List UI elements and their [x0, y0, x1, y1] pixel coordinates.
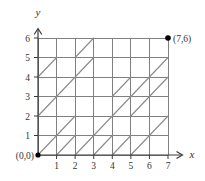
- endpoint-point-marker: [165, 35, 171, 41]
- diagonal-segment-12: [94, 136, 113, 156]
- diagonal-segment-6: [94, 77, 150, 136]
- diagonal-segment-5: [57, 136, 76, 156]
- figure-canvas: 1234567 123456 x y (0,0) (7,6): [0, 0, 205, 181]
- origin-label: (0,0): [16, 151, 34, 162]
- x-tick-label-3: 3: [91, 161, 96, 171]
- origin-point-marker: [35, 152, 40, 157]
- grid-horizontal-lines: [38, 38, 168, 155]
- diagonal-segment-2: [38, 58, 94, 117]
- y-axis-tick-labels: 123456: [25, 34, 30, 142]
- diagonal-segment-11: [149, 58, 168, 78]
- x-tick-label-2: 2: [73, 161, 78, 171]
- endpoint-label: (7,6): [173, 34, 191, 45]
- y-axis-label: y: [35, 6, 41, 18]
- x-tick-label-7: 7: [166, 161, 171, 171]
- lattice-grid-diagram: 1234567 123456 x y (0,0) (7,6): [0, 0, 205, 181]
- y-tick-label-1: 1: [25, 131, 30, 141]
- y-tick-label-6: 6: [25, 34, 30, 44]
- y-tick-label-2: 2: [25, 112, 30, 122]
- y-tick-label-4: 4: [25, 73, 30, 83]
- y-tick-label-3: 3: [25, 92, 30, 102]
- x-axis-label: x: [189, 148, 195, 160]
- diagonal-segment-4: [75, 136, 94, 156]
- diagonal-segment-9: [112, 136, 131, 156]
- y-tick-label-5: 5: [25, 53, 30, 63]
- x-axis-tick-labels: 1234567: [54, 161, 170, 171]
- diagonal-segment-7: [112, 77, 131, 97]
- x-tick-label-1: 1: [54, 161, 59, 171]
- x-tick-label-4: 4: [110, 161, 115, 171]
- x-tick-label-6: 6: [147, 161, 152, 171]
- diagonal-segment-0: [38, 58, 57, 78]
- x-axis-ticks: [57, 155, 168, 159]
- diagonal-segment-1: [75, 38, 94, 58]
- x-tick-label-5: 5: [128, 161, 133, 171]
